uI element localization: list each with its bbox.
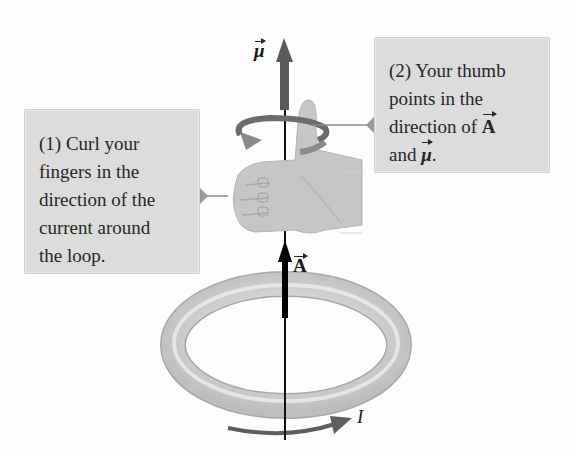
callout-2-line-3: direction of A — [389, 113, 549, 141]
callout-2-line-4-text: and — [389, 144, 421, 165]
callout-1-line-4: current around — [39, 214, 199, 242]
callout-curl-fingers: (1) Curl your fingers in the direction o… — [24, 109, 200, 274]
area-vector-label: A — [293, 255, 307, 277]
callout-1-line-3: direction of the — [39, 186, 199, 214]
callout-thumb-direction: (2) Your thumb points in the direction o… — [374, 37, 550, 173]
mu-vector-label: μ — [254, 40, 265, 62]
callout-1-line-1: (1) Curl your — [39, 130, 199, 158]
callout-1-line-2: fingers in the — [39, 158, 199, 186]
mu-vector-arrow-icon — [276, 38, 293, 110]
callout-2-line-4: and μ. — [389, 141, 549, 169]
vector-mu-symbol: μ — [421, 141, 432, 169]
callout-1-line-5: the loop. — [39, 242, 199, 270]
figure: (1) Curl your fingers in the direction o… — [0, 0, 576, 449]
current-label: I — [357, 406, 363, 428]
callout-2-line-2: points in the — [389, 85, 549, 113]
callout-2-period: . — [432, 144, 437, 165]
callout-2-line-3-text: direction of — [389, 116, 482, 137]
callout-2-line-1: (2) Your thumb — [389, 57, 549, 85]
vector-A-symbol: A — [482, 113, 496, 141]
